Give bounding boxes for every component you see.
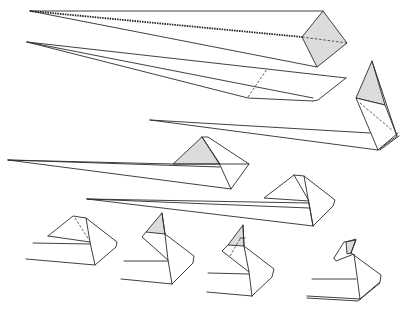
step-2-valley-crease (248, 69, 267, 97)
step-8-tip-edge (243, 225, 252, 296)
step-3-top-edge (150, 120, 370, 133)
step-8-figure (207, 225, 274, 296)
step-2-upper-edge (27, 42, 346, 78)
step-1-figure (30, 11, 347, 67)
step-8-upper-line (208, 273, 249, 274)
step-7-right-fold (165, 234, 194, 284)
step-9-figure (307, 239, 381, 301)
step-9-head-left (334, 254, 360, 299)
step-5-bottom-edge (87, 199, 313, 226)
step-8-lower-line (207, 292, 252, 296)
step-2-end-edge (313, 78, 346, 101)
step-3-figure (150, 61, 399, 150)
origami-diagram: Origami folding sequence (0, 0, 401, 309)
step-4-shaded-face (173, 137, 220, 164)
step-1-mountain-crease (30, 11, 302, 37)
step-3-bottom-edge (150, 120, 378, 150)
step-3-shaded-triangle (356, 61, 385, 105)
step-6-left-face (48, 216, 90, 242)
step-8-shaded-tip (228, 225, 244, 246)
step-5-inner-edge (87, 199, 309, 208)
step-6-upper-line (33, 243, 90, 244)
diagram-svg (0, 0, 401, 309)
step-1-shaded-diamond (302, 11, 347, 67)
step-5-top-edge (87, 199, 309, 203)
step-7-left-fold (142, 232, 168, 260)
step-2-figure (27, 42, 346, 101)
step-7-figure (121, 213, 194, 284)
step-5-left-face (264, 175, 309, 201)
step-5-figure (87, 175, 335, 226)
step-2-inner-edge (27, 42, 313, 98)
step-7-lower-line (121, 279, 172, 284)
step-4-figure (8, 137, 249, 189)
step-6-lower-line (26, 259, 95, 265)
step-9-head-right (351, 253, 381, 299)
step-6-right-face (86, 218, 117, 265)
step-7-tip-edge (162, 213, 172, 284)
step-6-figure (26, 216, 117, 265)
